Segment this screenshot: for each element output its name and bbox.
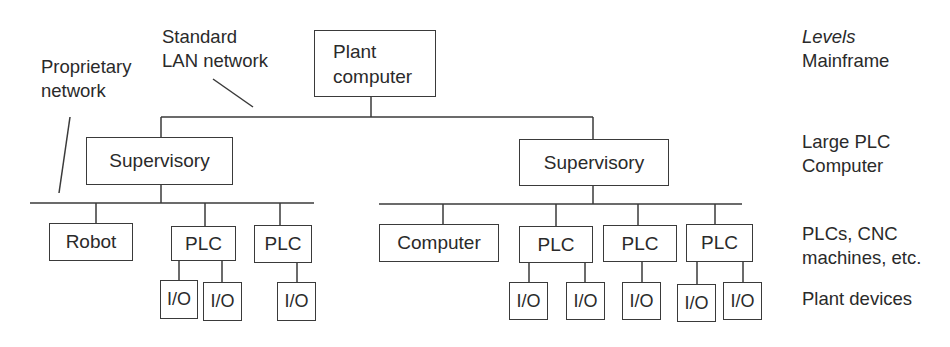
supervisory-node-right: Supervisory	[519, 139, 669, 186]
plant-computer-node: Plant computer	[314, 30, 436, 97]
io-device: I/O	[566, 282, 605, 320]
plc-node: PLC	[171, 226, 236, 261]
io-device: I/O	[160, 280, 198, 319]
plc-node: PLC	[519, 226, 593, 263]
io-device: I/O	[622, 282, 661, 320]
level-mainframe: Mainframe	[802, 49, 889, 73]
plc-node: PLC	[603, 225, 677, 262]
levels-heading: Levels	[802, 25, 889, 49]
proprietary-pointer	[59, 117, 70, 193]
io-device: I/O	[203, 282, 242, 321]
level-large-plc: Large PLC Computer	[802, 130, 890, 178]
supervisory-node-left: Supervisory	[86, 137, 233, 185]
io-device: I/O	[277, 282, 316, 321]
io-device: I/O	[677, 284, 716, 322]
level-plcs-cnc: PLCs, CNC machines, etc.	[802, 222, 921, 270]
lan-network-label: Standard LAN network	[162, 25, 268, 73]
plc-node: PLC	[254, 225, 312, 263]
plc-node: PLC	[686, 224, 753, 262]
io-device: I/O	[723, 282, 762, 320]
proprietary-network-label: Proprietary network	[41, 55, 131, 103]
computer-node: Computer	[379, 224, 499, 262]
level-plant-devices: Plant devices	[802, 287, 912, 311]
lan-pointer	[213, 79, 253, 107]
robot-node: Robot	[49, 223, 133, 261]
levels-heading-block: Levels Mainframe	[802, 25, 889, 73]
io-device: I/O	[509, 282, 548, 320]
